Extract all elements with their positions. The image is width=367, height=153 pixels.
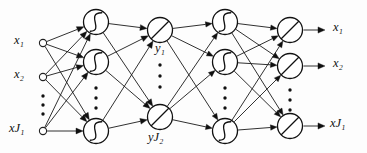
neuron-circle[interactable] xyxy=(84,119,109,144)
edge-arrowhead xyxy=(76,128,83,134)
ellipsis-dot-hidden-layer-1-1 xyxy=(94,86,97,89)
edge-arrowhead xyxy=(277,41,283,48)
output-label-xJ1: xJ₁ xyxy=(330,117,345,130)
neuron-circle[interactable] xyxy=(213,50,238,75)
neuron-circle[interactable] xyxy=(213,10,238,35)
ellipsis-dot-hidden-layer-1-2 xyxy=(94,96,97,99)
ellipsis-dot-input-layer-2 xyxy=(41,103,44,106)
node-hidden-layer-3-1 xyxy=(213,10,238,35)
input-node-circle[interactable] xyxy=(39,73,46,80)
ellipsis-dot-hidden-layer-1-3 xyxy=(94,106,97,109)
output-arrowhead-3 xyxy=(318,123,325,129)
ellipsis-dot-hidden-layer-3-2 xyxy=(223,96,226,99)
edge-line xyxy=(167,38,214,106)
edge-arrowhead xyxy=(82,72,89,79)
edge-line xyxy=(109,121,141,128)
node-hidden-layer-3-3 xyxy=(213,119,238,144)
edge-line xyxy=(109,24,140,28)
edge-line xyxy=(106,70,145,103)
node-input-layer-3 xyxy=(39,127,46,134)
edge-arrowhead xyxy=(76,27,84,32)
edge-line xyxy=(238,63,271,65)
node-input-layer-2 xyxy=(39,73,46,80)
input-label-xJ1-text: xJ₁ xyxy=(9,121,24,135)
output-arrowhead-1 xyxy=(318,27,325,33)
ellipsis-dot-bottleneck-layer-1 xyxy=(158,63,161,66)
edge-arrowhead xyxy=(212,113,218,120)
bottleneck-label-yJ2-text: yJ₂ xyxy=(148,130,163,144)
neuron-circle[interactable] xyxy=(84,10,109,35)
edge-line xyxy=(238,24,271,28)
neural-network-diagram: x₁ x₂ xJ₁ y₁ yJ₂ x₁ x₂ xJ₁ xyxy=(0,0,367,153)
edge-arrowhead xyxy=(147,41,153,48)
output-arrows-group xyxy=(304,27,326,129)
edge-line xyxy=(237,39,273,57)
edge-arrowhead xyxy=(270,25,277,30)
edge-line xyxy=(103,33,149,101)
neuron-circle[interactable] xyxy=(84,50,109,75)
node-output-layer-3 xyxy=(278,114,303,139)
edge-line xyxy=(172,36,208,54)
ellipsis-dot-hidden-layer-3-1 xyxy=(223,86,226,89)
input-label-x1-text: x₁ xyxy=(14,33,24,47)
edge-arrowhead xyxy=(140,25,147,31)
ellipsis-dot-bottleneck-layer-3 xyxy=(158,85,161,88)
ellipsis-dot-input-layer-3 xyxy=(41,112,44,115)
edge-arrowhead xyxy=(270,125,277,130)
node-hidden-layer-3-2 xyxy=(213,50,238,75)
edge-line xyxy=(103,47,149,120)
edge-arrowhead xyxy=(140,118,147,124)
output-label-x1: x₁ xyxy=(333,21,343,34)
output-label-x1-text: x₁ xyxy=(333,20,343,34)
input-label-x2: x₂ xyxy=(14,68,24,81)
edge-arrowhead xyxy=(205,124,212,129)
ellipsis-dot-output-layer-3 xyxy=(288,108,291,111)
edge-line xyxy=(234,80,276,122)
network-svg xyxy=(0,0,367,153)
ellipsis-dot-output-layer-1 xyxy=(288,88,291,91)
edge-arrowhead xyxy=(141,36,149,42)
edge-line xyxy=(173,24,206,28)
ellipsis-dot-output-layer-2 xyxy=(288,98,291,101)
edge-arrowhead xyxy=(76,65,84,71)
edge-arrowhead xyxy=(205,22,212,27)
node-output-layer-2 xyxy=(278,54,303,79)
output-label-x2-text: x₂ xyxy=(333,56,343,70)
node-hidden-layer-1-2 xyxy=(84,50,109,75)
edge-arrowhead xyxy=(270,62,277,67)
edge-arrowhead xyxy=(212,33,218,40)
ellipsis-dot-input-layer-1 xyxy=(41,94,44,97)
input-label-x2-text: x₂ xyxy=(14,67,24,81)
output-arrowhead-2 xyxy=(318,63,325,69)
bottleneck-label-yJ2: yJ₂ xyxy=(148,131,163,144)
neuron-circle[interactable] xyxy=(213,119,238,144)
input-label-x1: x₁ xyxy=(14,34,24,47)
ellipsis-dot-bottleneck-layer-2 xyxy=(158,74,161,77)
edge-line xyxy=(173,120,206,127)
ellipsis-dot-hidden-layer-3-3 xyxy=(223,106,226,109)
input-node-circle[interactable] xyxy=(39,127,46,134)
edge-line xyxy=(47,29,78,41)
bottleneck-label-y1-text: y₁ xyxy=(155,41,165,55)
node-hidden-layer-1-3 xyxy=(84,119,109,144)
edge-line xyxy=(167,41,214,115)
node-bottleneck-layer-2 xyxy=(148,105,173,130)
edge-line xyxy=(170,75,210,109)
node-bottleneck-layer-1 xyxy=(148,18,173,43)
edge-line xyxy=(236,29,274,55)
edge-arrowhead xyxy=(271,36,278,41)
output-label-x2: x₂ xyxy=(333,57,343,70)
node-hidden-layer-1-1 xyxy=(84,10,109,35)
bottleneck-label-y1: y₁ xyxy=(155,42,165,55)
edge-arrowhead xyxy=(206,51,213,56)
input-label-xJ1: xJ₁ xyxy=(9,122,24,135)
node-input-layer-1 xyxy=(39,39,46,46)
output-label-xJ1-text: xJ₁ xyxy=(330,116,345,130)
edge-line xyxy=(238,127,271,130)
edge-line xyxy=(232,33,280,109)
input-node-circle[interactable] xyxy=(39,39,46,46)
node-output-layer-1 xyxy=(278,18,303,43)
